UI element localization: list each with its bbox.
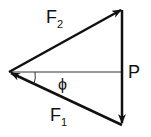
angle-label: ϕ bbox=[58, 77, 67, 93]
force-diagram: F2 P ϕ F1 bbox=[0, 0, 151, 137]
f1-label: F1 bbox=[50, 106, 67, 124]
f2-vector bbox=[9, 10, 121, 72]
p-label: P bbox=[128, 63, 140, 81]
f2-label: F2 bbox=[46, 8, 63, 26]
angle-arc bbox=[34, 72, 35, 84]
